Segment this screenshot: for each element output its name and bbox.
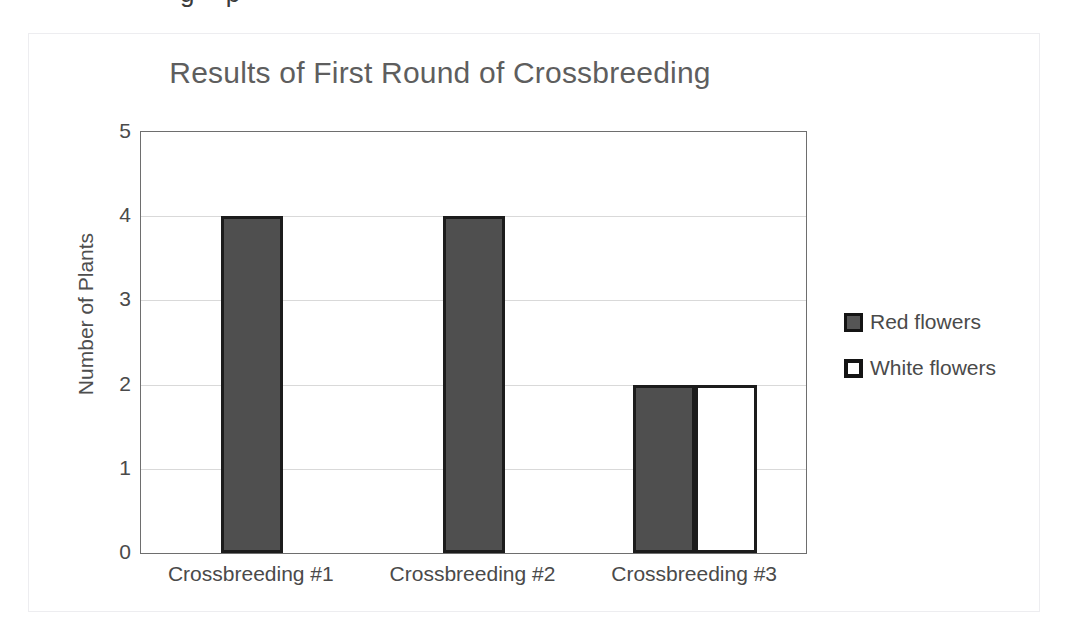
- chart-title: Results of First Round of Crossbreeding: [29, 56, 851, 90]
- plot-area: [140, 131, 807, 554]
- y-tick-label-0: 0: [97, 541, 131, 562]
- bar-1-red-flowers: [221, 216, 283, 553]
- y-tick-label-2: 2: [97, 373, 131, 394]
- y-tick-label-5: 5: [97, 120, 131, 141]
- y-tick-label-4: 4: [97, 204, 131, 225]
- legend-label-2: White flowers: [870, 356, 996, 380]
- y-tick-label-3: 3: [97, 288, 131, 309]
- bar-2-red-flowers: [443, 216, 505, 553]
- scan-artifact-text: g p: [180, 0, 252, 9]
- y-tick-label-1: 1: [97, 457, 131, 478]
- x-tick-label-1: Crossbreeding #1: [140, 562, 362, 586]
- chart-legend: Red flowersWhite flowers: [844, 309, 1034, 401]
- legend-swatch-icon-1: [844, 313, 863, 332]
- x-axis-tick-labels: Crossbreeding #1Crossbreeding #2Crossbre…: [140, 562, 807, 596]
- chart-card: Results of First Round of Crossbreeding …: [28, 33, 1040, 612]
- legend-item-white-flowers[interactable]: White flowers: [844, 355, 1034, 381]
- bar-3-red-flowers: [633, 385, 695, 553]
- legend-swatch-icon-2: [844, 359, 863, 378]
- x-tick-label-2: Crossbreeding #2: [362, 562, 584, 586]
- scan-artifact-clipped-text: g p: [180, 0, 300, 9]
- legend-label-1: Red flowers: [870, 310, 981, 334]
- bar-3-white-flowers: [695, 385, 757, 553]
- x-tick-label-3: Crossbreeding #3: [583, 562, 805, 586]
- y-axis-tick-labels: 543210: [89, 131, 131, 554]
- legend-item-red-flowers[interactable]: Red flowers: [844, 309, 1034, 335]
